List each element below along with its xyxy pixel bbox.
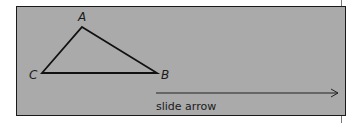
slide-arrow-caption: slide arrow [156,100,216,113]
vertex-label-b: B [161,68,169,82]
vertex-label-c: C [29,68,37,82]
triangle-abc [42,27,157,73]
vertex-label-a: A [78,10,86,24]
